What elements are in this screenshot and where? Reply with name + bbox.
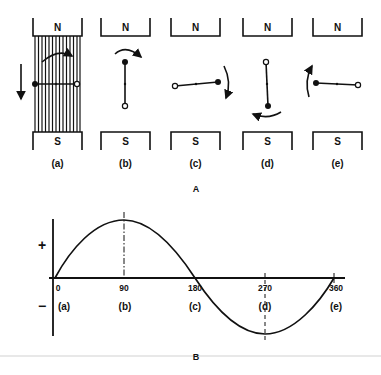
tick-label-0: 0	[56, 283, 61, 293]
tick-label-90: 90	[119, 283, 129, 293]
south-label-e: S	[334, 136, 341, 147]
tick-labels: 0 90 180 270 360	[56, 283, 344, 293]
north-label-d: N	[264, 22, 271, 33]
pivot-d	[266, 83, 268, 85]
south-label-b: S	[122, 136, 129, 147]
south-label-a: S	[54, 136, 61, 147]
conductor-hollow-b	[122, 103, 127, 108]
conductor-filled-b	[122, 59, 128, 65]
generator-diagram: N S (a) N	[0, 0, 381, 375]
sine-wave	[55, 220, 334, 334]
south-label-d: S	[264, 136, 271, 147]
graph-position-e: (e)	[330, 301, 342, 312]
pivot-c	[195, 83, 197, 85]
north-label-a: N	[54, 22, 61, 33]
graph-position-b: (b)	[119, 301, 132, 312]
south-label-c: S	[192, 136, 199, 147]
conductor-hollow-d	[263, 59, 268, 64]
panel-b: + − 0 90 180 270 360 (a) (b) (c) (d) (e)…	[0, 212, 381, 362]
panel-a: N S (a) N	[21, 18, 362, 194]
position-labels: (a) (b) (c) (d) (e)	[58, 301, 342, 312]
pivot-e	[336, 83, 338, 85]
pivot-b	[124, 83, 126, 85]
rotation-arrow-b	[115, 50, 141, 57]
position-b: N S (b)	[101, 18, 150, 169]
graph-position-c: (c)	[189, 301, 201, 312]
conductor-filled-e	[313, 80, 319, 86]
positive-sign: +	[38, 237, 46, 253]
conductor-hollow-e	[355, 82, 360, 87]
rotation-arrow-a	[42, 53, 72, 62]
position-label-c: (c)	[189, 158, 201, 169]
negative-sign: −	[38, 298, 46, 314]
position-label-d: (d)	[261, 158, 274, 169]
conductor-filled-c	[215, 79, 221, 85]
position-label-e: (e)	[331, 158, 343, 169]
north-label-c: N	[192, 22, 199, 33]
tick-label-270: 270	[258, 283, 272, 293]
conductor-hollow-c	[172, 83, 177, 88]
pivot-a	[55, 83, 57, 85]
position-d: N S (d)	[243, 18, 292, 169]
rotation-arrow-c	[224, 66, 229, 98]
panel-a-caption: A	[193, 184, 200, 194]
graph-position-a: (a)	[58, 301, 70, 312]
position-label-a: (a)	[51, 158, 63, 169]
north-label-e: N	[334, 22, 341, 33]
tick-label-360: 360	[329, 283, 343, 293]
position-e: N S (e)	[307, 18, 362, 169]
conductor-hollow-a	[74, 81, 79, 86]
graph-position-d: (d)	[259, 301, 272, 312]
panel-b-caption: B	[193, 352, 200, 362]
north-label-b: N	[122, 22, 129, 33]
position-a: N S (a)	[21, 18, 82, 169]
rotation-arrow-e	[307, 66, 312, 97]
conductor-filled-a	[32, 81, 38, 87]
rotation-arrow-d	[253, 112, 281, 117]
conductor-filled-d	[265, 103, 271, 109]
position-c: N S (c)	[171, 18, 229, 169]
tick-label-180: 180	[188, 283, 202, 293]
position-label-b: (b)	[119, 158, 132, 169]
